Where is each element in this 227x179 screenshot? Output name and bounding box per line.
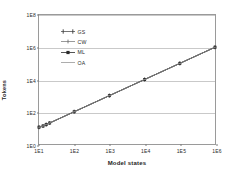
y-tick-label-1e4: 1E4 bbox=[27, 78, 37, 84]
y-axis-title: Tokens bbox=[1, 79, 7, 99]
x-tick-label-1e3: 1E3 bbox=[105, 148, 115, 154]
chart-container: Tokens 1E8 1E6 1E4 1E2 1E0 1E1 1E2 1E3 1… bbox=[0, 0, 227, 179]
legend-label-gs: GS bbox=[78, 29, 86, 35]
legend-marker-oa bbox=[61, 59, 75, 66]
legend-marker-cw bbox=[61, 38, 75, 45]
y-tick-label-1e2: 1E2 bbox=[27, 110, 37, 116]
x-tick-mark bbox=[74, 144, 75, 146]
x-tick-label-1e5: 1E5 bbox=[177, 148, 187, 154]
y-tick-label-1e6: 1E6 bbox=[27, 45, 37, 51]
legend: GS CW ML OA bbox=[61, 28, 87, 66]
legend-item-gs[interactable]: GS bbox=[61, 28, 87, 35]
x-tick-mark bbox=[181, 144, 182, 146]
x-tick-mark bbox=[217, 144, 218, 146]
legend-label-ml: ML bbox=[78, 49, 86, 55]
x-tick-label-1e6: 1E6 bbox=[212, 148, 222, 154]
legend-item-ml[interactable]: ML bbox=[61, 49, 87, 56]
x-tick-mark bbox=[145, 144, 146, 146]
y-tick-label-1e8: 1E8 bbox=[27, 12, 37, 18]
legend-item-oa[interactable]: OA bbox=[61, 59, 87, 66]
x-axis-title: Model states bbox=[38, 160, 216, 166]
legend-marker-gs bbox=[61, 28, 75, 35]
x-tick-label-1e4: 1E4 bbox=[141, 148, 151, 154]
plot-area: 1E8 1E6 1E4 1E2 1E0 1E1 1E2 1E3 1E4 1E5 … bbox=[38, 14, 216, 145]
legend-label-cw: CW bbox=[78, 39, 87, 45]
legend-item-cw[interactable]: CW bbox=[61, 38, 87, 45]
legend-label-oa: OA bbox=[78, 60, 86, 66]
x-tick-label-1e2: 1E2 bbox=[70, 148, 80, 154]
legend-marker-ml bbox=[61, 49, 75, 56]
x-tick-mark bbox=[39, 144, 40, 146]
x-tick-label-1e1: 1E1 bbox=[34, 148, 44, 154]
x-tick-mark bbox=[110, 144, 111, 146]
